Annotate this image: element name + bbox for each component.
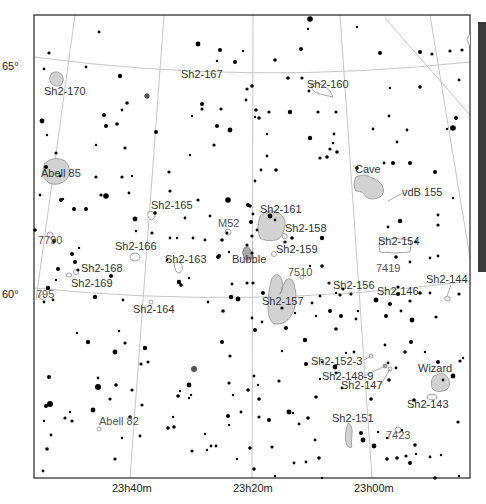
label-sh2-165: Sh2-165 [151, 199, 193, 211]
label-sh2-156: Sh2-156 [333, 279, 375, 291]
label-abell-82: Abell 82 [99, 415, 139, 427]
object-labels: Sh2-170 Sh2-167 Sh2-160 Abell 85 Cave vd… [36, 68, 468, 441]
label-7419: 7419 [376, 262, 400, 274]
side-scale-bar [478, 22, 486, 272]
ra-label-23h00m: 23h00m [354, 482, 394, 494]
nebula-m52 [225, 229, 231, 235]
label-sh2-146: Sh2-146 [377, 285, 419, 297]
label-cave: Cave [355, 163, 381, 175]
label-sh2-167: Sh2-167 [181, 68, 223, 80]
dec-label-65: 65° [2, 60, 19, 72]
label-bubble: Bubble [232, 253, 266, 265]
label-sh2-147: Sh2-147 [341, 379, 383, 391]
nebula-sh2-151 [345, 423, 352, 448]
label-sh2-161: Sh2-161 [260, 203, 302, 215]
label-sh2-157: Sh2-157 [262, 295, 304, 307]
nebula-wizard [431, 373, 449, 391]
label-sh2-169: Sh2-169 [71, 277, 113, 289]
label-sh2-164: Sh2-164 [133, 303, 175, 315]
nebula-sh2-144 [445, 296, 450, 301]
axis-labels: 65° 60° 23h40m 23h20m 23h00m [2, 60, 394, 494]
label-wizard: Wizard [418, 362, 452, 374]
nebula-edge-top-right [468, 34, 471, 46]
label-7423: 7423 [386, 429, 410, 441]
dec-label-60: 60° [2, 288, 19, 300]
label-vdb-155: vdB 155 [402, 186, 442, 198]
label-sh2-170: Sh2-170 [44, 85, 86, 97]
label-sh2-159: Sh2-159 [276, 243, 318, 255]
label-sh2-154: Sh2-154 [378, 235, 420, 247]
nebula-abell-82 [97, 427, 101, 431]
label-sh2-168: Sh2-168 [81, 262, 123, 274]
label-sh2-160: Sh2-160 [307, 78, 349, 90]
label-7510: 7510 [288, 266, 312, 278]
label-sh2-166: Sh2-166 [115, 240, 157, 252]
ra-label-23h40m: 23h40m [112, 482, 152, 494]
label-sh2-144: Sh2-144 [426, 273, 468, 285]
nebula-cave [354, 175, 384, 199]
nebula-sh2-166 [130, 253, 140, 261]
nebula-sh2-170 [50, 72, 64, 86]
label-sh2-152-3: Sh2-152-3 [311, 355, 362, 367]
star-chart: Sh2-170 Sh2-167 Sh2-160 Abell 85 Cave vd… [0, 0, 486, 504]
label-sh2-151: Sh2-151 [332, 412, 374, 424]
label-m52: M52 [218, 217, 239, 229]
label-sh2-163: Sh2-163 [165, 253, 207, 265]
label-7790: 7790 [38, 234, 62, 246]
label-795: 795 [36, 288, 54, 300]
label-sh2-143: Sh2-143 [407, 398, 449, 410]
label-sh2-158: Sh2-158 [285, 222, 327, 234]
ra-label-23h20m: 23h20m [233, 482, 273, 494]
nebula-sh2-158 [282, 233, 287, 239]
label-abell-85: Abell 85 [41, 167, 81, 179]
